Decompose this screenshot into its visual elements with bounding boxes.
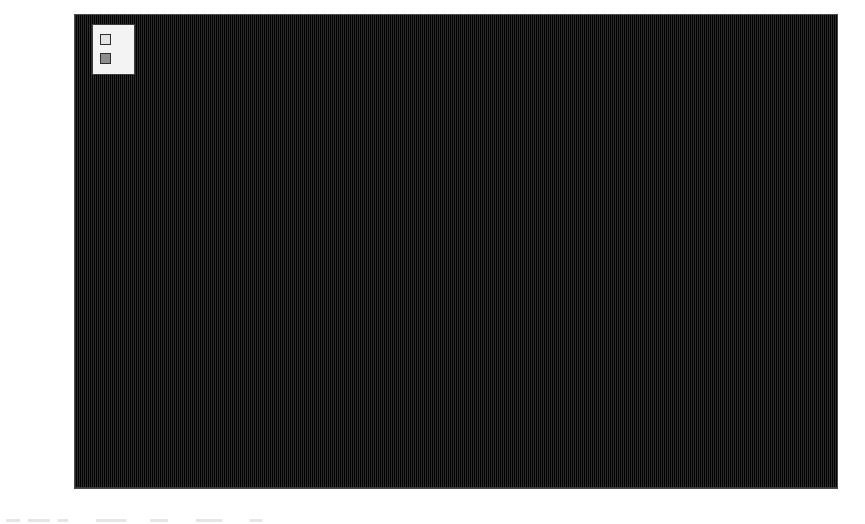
legend-item-1 — [100, 49, 124, 68]
y-axis-tick-labels — [18, 0, 68, 524]
scan-edge-artifact — [0, 516, 865, 524]
chart-legend — [92, 24, 135, 75]
legend-swatch-icon-series-bottom — [100, 53, 111, 64]
chart-container — [0, 0, 865, 524]
x-axis-line — [74, 487, 837, 488]
area-series-unternehmens-und-vermoegenseinkommen — [75, 15, 837, 488]
legend-swatch-icon-series-top — [100, 34, 111, 45]
stacked-area-plot — [75, 15, 837, 488]
legend-item-0 — [100, 30, 124, 49]
plot-area — [74, 14, 838, 489]
